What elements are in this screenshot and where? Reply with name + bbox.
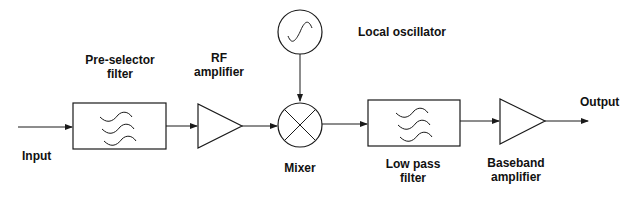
preselector-label-line1: Pre-selector bbox=[85, 53, 155, 67]
mixer-block bbox=[278, 103, 322, 147]
local-oscillator-label: Local oscillator bbox=[358, 25, 446, 39]
lpf-label-line1: Low pass bbox=[386, 157, 441, 171]
rf-amplifier-triangle-icon bbox=[198, 104, 242, 148]
lpf-label-line2: filter bbox=[400, 171, 426, 185]
low-pass-filter-block bbox=[368, 100, 460, 146]
rf-amp-label-line2: amplifier bbox=[194, 65, 244, 79]
output-label: Output bbox=[580, 95, 619, 109]
baseband-label-line2: amplifier bbox=[491, 170, 541, 184]
local-oscillator-block bbox=[278, 10, 322, 54]
preselector-label-line2: filter bbox=[107, 67, 133, 81]
rf-amp-label-line1: RF bbox=[211, 51, 227, 65]
baseband-amplifier-triangle-icon bbox=[500, 99, 545, 144]
input-label: Input bbox=[22, 149, 51, 163]
block-diagram: Input Pre-selector filter RF amplifier L… bbox=[0, 0, 642, 198]
mixer-label: Mixer bbox=[284, 161, 316, 175]
baseband-label-line1: Baseband bbox=[487, 156, 544, 170]
preselector-filter-block bbox=[73, 103, 166, 149]
